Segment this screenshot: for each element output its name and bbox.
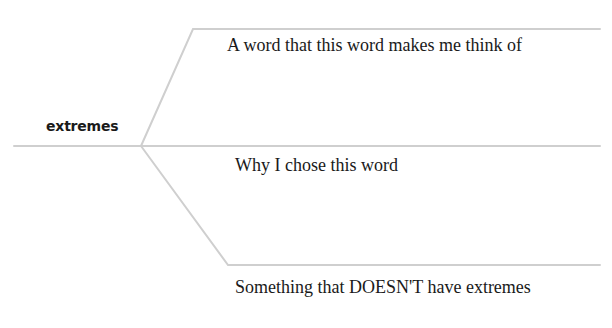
central-word: extremes — [46, 118, 118, 134]
prompt-associated-word: A word that this word makes me think of — [227, 35, 522, 56]
prompt-non-example: Something that DOESN'T have extremes — [235, 277, 531, 298]
prompt-why-chosen: Why I chose this word — [235, 155, 398, 176]
